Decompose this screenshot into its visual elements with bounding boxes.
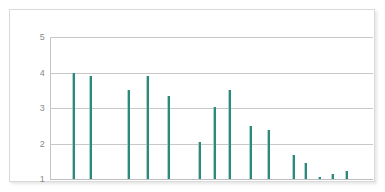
y-tick-label-3: 3: [40, 104, 45, 113]
spike-bar: [332, 174, 334, 179]
chart-frame: 12345: [9, 9, 375, 182]
spike-bar: [319, 177, 321, 179]
spike-bar: [90, 76, 92, 179]
spike-bar: [199, 142, 201, 179]
spike-bar: [147, 76, 149, 179]
y-tick-label-2: 2: [40, 139, 45, 148]
spike-bar: [73, 73, 75, 180]
spike-bar: [268, 130, 270, 179]
spike-bar: [214, 107, 216, 179]
spike-bar: [293, 155, 295, 179]
y-tick-label-1: 1: [40, 175, 45, 184]
spike-bar: [346, 171, 348, 179]
gridline-y-1: [50, 179, 373, 180]
chart-figure: 12345: [0, 0, 385, 192]
y-tick-label-5: 5: [40, 33, 45, 42]
spike-bar: [305, 163, 307, 179]
spike-bar: [128, 90, 130, 179]
plot-area: [50, 37, 373, 179]
y-tick-label-4: 4: [40, 68, 45, 77]
y-axis-tick-labels: 12345: [28, 37, 45, 179]
spike-bar: [229, 90, 231, 179]
spike-bar: [250, 126, 252, 179]
spike-bar: [168, 96, 170, 179]
spike-series: [50, 37, 373, 179]
